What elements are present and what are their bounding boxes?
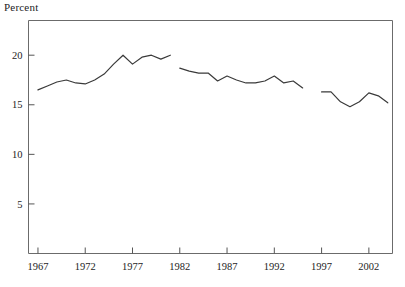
percent-line-chart: Percent 5101520 196719721977198219871992…: [0, 0, 405, 287]
y-tick-label: 10: [12, 149, 23, 160]
y-tick-label: 5: [17, 199, 22, 210]
x-tick-label: 2002: [358, 261, 379, 272]
plot-frame: [29, 21, 393, 254]
y-tick-label: 15: [12, 99, 23, 110]
x-tick-label: 1972: [75, 261, 96, 272]
data-line-segment-1: [38, 55, 170, 90]
x-tick-label: 1987: [217, 261, 238, 272]
plot-area: 5101520 19671972197719821987199219972002: [0, 0, 405, 287]
data-line-segment-3: [322, 92, 388, 107]
x-tick-label: 1992: [264, 261, 285, 272]
x-tick-label: 1977: [122, 261, 143, 272]
data-series-group: [38, 55, 388, 107]
y-tick-label: 20: [12, 50, 23, 61]
x-tick-label: 1997: [311, 261, 332, 272]
x-axis-ticks: 19671972197719821987199219972002: [27, 248, 379, 272]
frame-rect: [29, 21, 393, 254]
data-line-segment-2: [180, 68, 303, 88]
x-tick-label: 1982: [169, 261, 190, 272]
x-tick-label: 1967: [27, 261, 48, 272]
y-axis-ticks: 5101520: [12, 50, 35, 210]
